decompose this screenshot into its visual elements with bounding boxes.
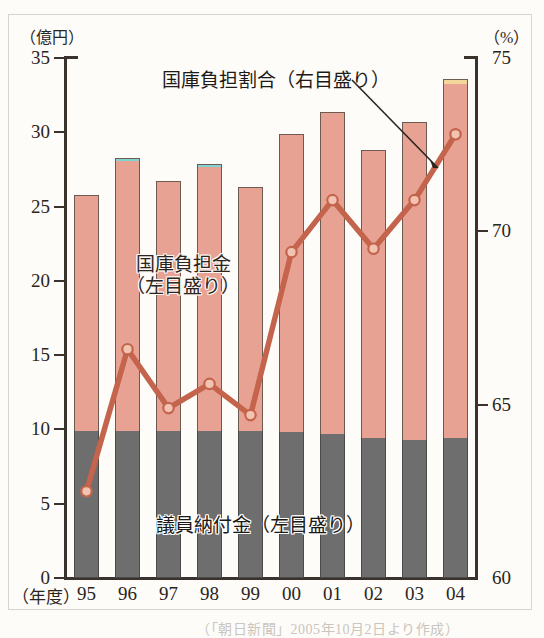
annotation-giin-label: 議員納付金（左目盛り） xyxy=(156,510,365,537)
left-tick-mark xyxy=(54,354,64,356)
left-tick-mark xyxy=(54,280,64,282)
ratio-data-marker xyxy=(327,195,337,205)
x-tick-label: 04 xyxy=(436,583,476,605)
ratio-data-marker xyxy=(409,195,419,205)
source-note-text: （「朝日新聞」2005年10月2日より作成） xyxy=(196,618,459,638)
right-tick-label: 75 xyxy=(492,48,511,67)
x-tick-label: 97 xyxy=(149,583,189,605)
left-tick-mark xyxy=(54,503,64,505)
left-tick-label: 20 xyxy=(16,271,50,290)
x-tick-label: 02 xyxy=(354,583,394,605)
left-tick-label: 15 xyxy=(16,345,50,364)
ratio-data-marker xyxy=(204,379,214,389)
annotation-ratio-label: 国庫負担割合（右目盛り） xyxy=(162,65,390,92)
ratio-line-layer xyxy=(66,58,476,578)
annotation-kokko-label: 国庫負担金 （左目盛り） xyxy=(126,254,240,298)
source-note-strip: （「朝日新聞」2005年10月2日より作成） xyxy=(8,612,532,638)
left-tick-label: 10 xyxy=(16,419,50,438)
right-tick-label: 70 xyxy=(492,221,511,240)
ratio-data-marker xyxy=(450,129,460,139)
x-tick-label: 98 xyxy=(190,583,230,605)
ratio-line-path xyxy=(87,134,456,491)
annotation-kokko-line2: （左目盛り） xyxy=(126,276,240,298)
cut-off-header-strip xyxy=(0,0,544,14)
chart-page: （億円） （%） 05101520253035 60657075 国庫負担割合（… xyxy=(0,0,544,638)
right-tick-mark xyxy=(478,404,488,406)
left-tick-mark xyxy=(54,428,64,430)
left-tick-mark xyxy=(54,57,64,59)
right-axis-unit: （%） xyxy=(484,24,529,48)
ratio-data-marker xyxy=(81,486,91,496)
ratio-data-marker xyxy=(122,344,132,354)
plot-area: 国庫負担割合（右目盛り） 国庫負担金 （左目盛り） 議員納付金（左目盛り） xyxy=(66,58,476,578)
x-tick-label: 95 xyxy=(67,583,107,605)
left-tick-label: 30 xyxy=(16,122,50,141)
left-tick-label: 5 xyxy=(16,494,50,513)
left-tick-label: 35 xyxy=(16,48,50,67)
ratio-data-marker xyxy=(245,410,255,420)
x-tick-label: 01 xyxy=(313,583,353,605)
x-tick-label: 96 xyxy=(108,583,148,605)
ratio-marker-group xyxy=(81,129,460,496)
ratio-data-marker xyxy=(286,247,296,257)
ratio-data-marker xyxy=(163,403,173,413)
annotation-kokko-line1: 国庫負担金 xyxy=(126,254,240,276)
x-tick-label: 00 xyxy=(272,583,312,605)
left-tick-label: 25 xyxy=(16,197,50,216)
left-axis-unit: （億円） xyxy=(20,24,84,48)
x-tick-label: 03 xyxy=(395,583,435,605)
left-tick-mark xyxy=(54,206,64,208)
right-tick-label: 65 xyxy=(492,395,511,414)
left-tick-mark xyxy=(54,577,64,579)
ratio-data-marker xyxy=(368,244,378,254)
left-tick-mark xyxy=(54,131,64,133)
right-tick-mark xyxy=(478,230,488,232)
right-tick-label: 60 xyxy=(492,568,511,587)
x-tick-label: 99 xyxy=(231,583,271,605)
